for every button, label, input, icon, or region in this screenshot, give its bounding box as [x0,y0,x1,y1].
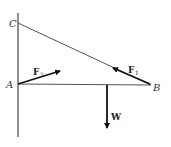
force-label-F2: F [33,67,40,77]
force-label-F1: F [128,65,135,75]
point-label-B: B [152,82,160,93]
force-label-W: W [110,112,122,122]
point-label-C: C [9,18,17,29]
force-diagram: C A B F 2 F 1 W [0,0,171,147]
force-label-F1-subscript: 1 [135,69,139,76]
beam-AB [18,84,151,85]
force-label-F2-subscript: 2 [40,71,44,78]
point-label-A: A [5,79,13,90]
